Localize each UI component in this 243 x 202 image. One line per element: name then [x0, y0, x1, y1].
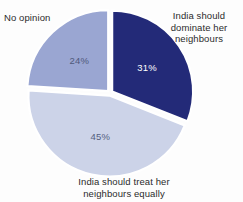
pie-slice-value: 45%: [90, 131, 110, 142]
pie-slice-value: 31%: [137, 62, 157, 73]
slice-label-no-opinion: No opinion: [4, 12, 84, 24]
pie-chart-figure: 31%45%24% India should dominate her neig…: [0, 0, 243, 202]
pie-slice-value: 24%: [70, 55, 90, 66]
slice-label-treat-equally: India should treat her neighbours equall…: [46, 176, 202, 199]
slice-label-dominate: India should dominate her neighbours: [158, 10, 240, 45]
